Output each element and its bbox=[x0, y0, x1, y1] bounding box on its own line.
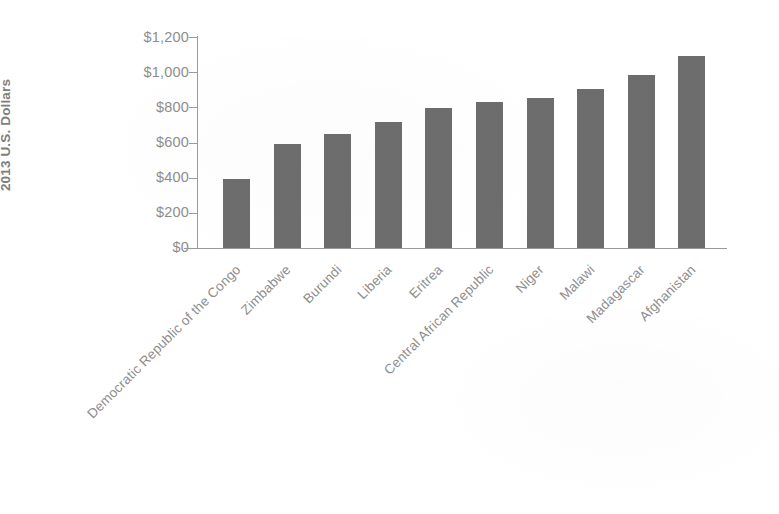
x-tick-label: Zimbabwe bbox=[238, 262, 293, 317]
x-tick-label: Afghanistan bbox=[636, 262, 698, 324]
x-tick-label: Burundi bbox=[300, 262, 344, 306]
x-tick-label: Madagascar bbox=[584, 262, 648, 326]
bar bbox=[274, 144, 301, 248]
bar bbox=[527, 98, 554, 249]
y-axis-tick-mark bbox=[189, 37, 197, 38]
x-axis-line bbox=[184, 248, 727, 249]
x-tick-label: Malawi bbox=[556, 262, 597, 303]
y-axis-title: 2013 U.S. Dollars bbox=[0, 20, 20, 250]
y-tick-label: $1,000 bbox=[111, 64, 189, 80]
bar bbox=[375, 122, 402, 248]
y-tick-label: $1,200 bbox=[111, 29, 189, 45]
y-axis-tick-mark bbox=[189, 178, 197, 179]
y-axis-tick-mark bbox=[189, 248, 197, 249]
bar bbox=[678, 56, 705, 248]
bar-chart: 2013 U.S. Dollars $1,200 $1,000 $800 $60… bbox=[0, 0, 779, 514]
bar bbox=[577, 89, 604, 248]
bar bbox=[223, 179, 250, 248]
y-axis-tick-mark bbox=[189, 72, 197, 73]
y-axis-tick-labels: $1,200 $1,000 $800 $600 $400 $200 $0 bbox=[107, 0, 189, 514]
y-tick-label: $0 bbox=[111, 239, 189, 255]
y-tick-label: $200 bbox=[111, 204, 189, 220]
bar bbox=[324, 134, 351, 248]
bar bbox=[628, 75, 655, 248]
y-axis-tick-mark bbox=[189, 107, 197, 108]
y-tick-label: $600 bbox=[111, 134, 189, 150]
y-tick-label: $400 bbox=[111, 169, 189, 185]
y-tick-label: $800 bbox=[111, 99, 189, 115]
bar bbox=[425, 108, 452, 248]
x-tick-label: Central African Republic bbox=[381, 262, 497, 378]
y-axis-tick-mark bbox=[189, 143, 197, 144]
plot-area bbox=[197, 37, 727, 248]
x-tick-label: Liberia bbox=[355, 262, 395, 302]
y-axis-tick-mark bbox=[189, 213, 197, 214]
x-tick-label: Eritrea bbox=[406, 262, 445, 301]
bar bbox=[476, 102, 503, 248]
x-tick-label: Niger bbox=[513, 262, 547, 296]
